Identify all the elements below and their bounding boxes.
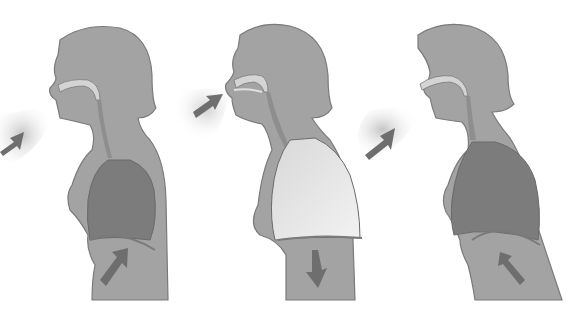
air-cloud-out bbox=[358, 105, 420, 154]
lung bbox=[87, 160, 155, 240]
panel-exhale-1 bbox=[0, 27, 168, 301]
lung-inflated bbox=[271, 138, 360, 240]
air-cloud-out bbox=[0, 105, 55, 165]
breathing-diagram bbox=[0, 0, 583, 315]
panel-exhale-2 bbox=[418, 24, 562, 300]
lung bbox=[451, 142, 539, 240]
panel-inhale bbox=[172, 24, 362, 300]
